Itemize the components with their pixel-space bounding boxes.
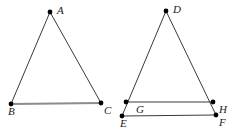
vertex-label-b: B xyxy=(8,106,15,117)
vertex-dot-f xyxy=(214,113,219,118)
vertex-label-a: A xyxy=(57,5,64,16)
triangle-def xyxy=(120,9,219,119)
figure-svg xyxy=(0,0,243,136)
geometry-figure: A B C D E F G H xyxy=(0,0,243,136)
vertex-dot-g xyxy=(124,100,129,105)
vertex-label-e: E xyxy=(120,118,127,129)
edge-bc-highlighted xyxy=(11,103,101,104)
vertex-dot-a xyxy=(48,10,53,15)
vertex-dot-d xyxy=(164,9,169,14)
vertex-dot-c xyxy=(99,101,104,106)
triangle-abc xyxy=(9,10,104,107)
edge-df xyxy=(166,11,216,115)
vertex-label-c: C xyxy=(104,105,111,116)
vertex-label-d: D xyxy=(173,4,181,15)
vertex-label-g: G xyxy=(136,104,144,115)
vertex-label-f: F xyxy=(219,117,226,128)
edge-de xyxy=(122,11,166,116)
vertex-dot-h xyxy=(211,100,216,105)
edge-ac xyxy=(50,12,101,103)
edge-ef xyxy=(122,115,216,116)
vertex-label-h: H xyxy=(219,104,227,115)
edge-ab xyxy=(11,12,50,104)
